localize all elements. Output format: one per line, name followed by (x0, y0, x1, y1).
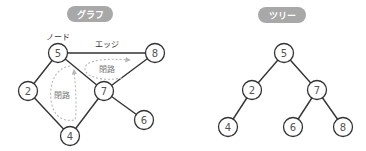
svg-text:2: 2 (249, 85, 255, 96)
svg-text:5: 5 (55, 48, 61, 59)
graph-title-pill: グラフ (67, 6, 113, 22)
svg-text:6: 6 (141, 115, 147, 126)
tree-node-7: 7 (308, 81, 327, 100)
tree-node-6: 6 (284, 118, 303, 137)
svg-text:6: 6 (290, 122, 296, 133)
node-label: ノード (46, 33, 70, 42)
graph-node-7: 7 (95, 82, 114, 101)
tree-node-2: 2 (243, 81, 262, 100)
graph-tree-diagram: グラフ ノード エッジ 閉路 閉路 5 8 (0, 0, 366, 151)
tree-title-pill: ツリー (258, 7, 306, 23)
svg-text:8: 8 (340, 122, 346, 133)
graph-node-5: 5 (49, 44, 68, 63)
cycle-top-label: 閉路 (99, 64, 115, 74)
cycle-left-label: 閉路 (54, 90, 70, 100)
tree-node-5: 5 (275, 44, 294, 63)
graph-panel: グラフ ノード エッジ 閉路 閉路 5 8 (19, 6, 165, 146)
tree-node-4: 4 (219, 118, 238, 137)
graph-node-2: 2 (19, 82, 38, 101)
tree-node-8: 8 (334, 118, 353, 137)
graph-title: グラフ (77, 9, 104, 20)
tree-panel: ツリー 5 2 7 4 6 8 (219, 7, 353, 137)
graph-node-8: 8 (146, 44, 165, 63)
svg-text:4: 4 (225, 122, 231, 133)
tree-title: ツリー (269, 11, 296, 21)
svg-text:4: 4 (67, 131, 73, 142)
svg-text:2: 2 (25, 86, 31, 97)
svg-text:7: 7 (101, 86, 107, 97)
edge-label: エッジ (95, 40, 119, 49)
svg-text:5: 5 (281, 48, 287, 59)
graph-node-6: 6 (135, 111, 154, 130)
graph-node-4: 4 (61, 127, 80, 146)
svg-text:7: 7 (314, 85, 320, 96)
svg-text:8: 8 (152, 48, 158, 59)
